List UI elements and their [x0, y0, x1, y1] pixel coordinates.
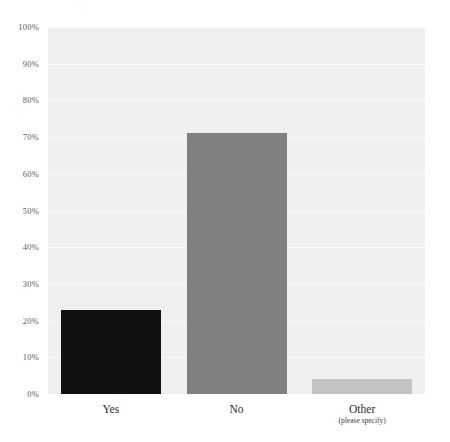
x-axis-tick: Yes	[102, 403, 119, 416]
x-axis-tick: No	[229, 403, 243, 416]
bar	[61, 310, 161, 394]
y-axis-tick-label: 70%	[23, 132, 39, 142]
x-axis-tick: Other(please specify)	[339, 403, 386, 426]
y-axis-tick-label: 60%	[23, 169, 39, 179]
bar-chart: 0%10%20%30%40%50%60%70%80%90%100% YesNoO…	[0, 0, 450, 442]
y-axis-tick-label: 90%	[23, 59, 39, 69]
x-axis: YesNoOther(please specify)	[48, 394, 425, 442]
y-axis-tick-label: 80%	[23, 95, 39, 105]
y-axis-tick-label: 40%	[23, 242, 39, 252]
bar	[312, 379, 412, 394]
bar	[187, 133, 287, 394]
x-axis-tick-label: No	[229, 403, 243, 416]
x-axis-tick-label: Yes	[102, 403, 119, 416]
x-axis-tick-sublabel: (please specify)	[339, 416, 386, 426]
y-axis: 0%10%20%30%40%50%60%70%80%90%100%	[0, 0, 44, 442]
plot-area	[48, 27, 425, 394]
y-axis-tick-label: 30%	[23, 279, 39, 289]
y-axis-tick-label: 20%	[23, 316, 39, 326]
bars	[48, 27, 425, 394]
x-axis-tick-label: Other	[339, 403, 386, 416]
faint-top-artifact	[76, 2, 90, 10]
y-axis-tick-label: 0%	[27, 389, 39, 399]
y-axis-tick-label: 100%	[18, 22, 39, 32]
y-axis-tick-label: 50%	[23, 206, 39, 216]
y-axis-tick-label: 10%	[23, 352, 39, 362]
